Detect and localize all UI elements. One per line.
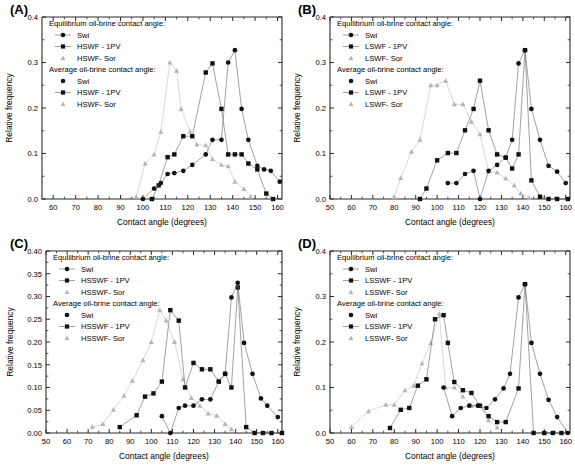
y-tick-label: 0.25	[27, 315, 42, 324]
x-tick-label: 100	[431, 437, 444, 446]
y-axis-title: Relative frequency	[292, 307, 302, 377]
legend-entry-label: Swi	[365, 31, 378, 40]
x-tick-label: 120	[474, 203, 487, 212]
legend: Equilibrium oil-brine contact angle:SwiH…	[53, 253, 169, 343]
x-tick-label: 100	[431, 203, 444, 212]
x-tick-label: 90	[126, 437, 134, 446]
legend-heading: Equilibrium oil-brine contact angle:	[53, 253, 169, 262]
x-tick-label: 160	[559, 203, 572, 212]
y-tick-label: 0.3	[315, 58, 326, 67]
x-tick-label: 60	[49, 203, 57, 212]
chart-svg: 50607080901001101201301401501600.00.10.2…	[288, 0, 575, 234]
y-tick-label: 0.2	[27, 104, 38, 113]
x-tick-label: 90	[116, 203, 124, 212]
y-tick-label: 0.4	[27, 13, 38, 22]
legend-entry-label: Swi	[77, 77, 90, 86]
legend: Equilibrium oil-brine contact angle:SwiL…	[337, 19, 453, 109]
x-tick-label: 60	[63, 437, 71, 446]
series-hswf-sor	[134, 60, 253, 199]
x-tick-label: 150	[538, 203, 551, 212]
y-tick-label: 0.4	[315, 13, 326, 22]
x-axis-title: Contact angle (degrees)	[405, 451, 495, 461]
y-tick-label: 0.3	[315, 292, 326, 301]
legend-entry-label: LSWF - 1PV	[365, 88, 408, 97]
x-tick-label: 140	[517, 437, 530, 446]
y-axis-title: Relative frequency	[4, 73, 14, 143]
x-tick-label: 70	[84, 437, 92, 446]
x-tick-label: 90	[411, 203, 419, 212]
legend-entry-label: HSSWF - 1PV	[81, 322, 130, 331]
plot-area-d: 50607080901001101201301401501600.00.10.2…	[288, 234, 575, 468]
y-tick-label: 0.3	[27, 58, 38, 67]
chart-panel-c: (C) 50607080901001101201301401501600.000…	[0, 234, 287, 468]
y-tick-label: 0.15	[27, 361, 42, 370]
y-tick-label: 0.05	[27, 406, 42, 415]
x-tick-label: 150	[538, 437, 551, 446]
legend-entry-label: LSWF- Sor	[365, 100, 403, 109]
legend-entry-label: LSSWF - 1PV	[365, 322, 413, 331]
x-tick-label: 70	[369, 437, 377, 446]
x-tick-label: 150	[250, 437, 263, 446]
y-tick-label: 0.1	[27, 149, 38, 158]
legend-heading: Equilibrium oil-brine contact angle:	[337, 19, 453, 28]
x-tick-label: 130	[208, 437, 221, 446]
x-tick-label: 120	[474, 437, 487, 446]
x-tick-label: 160	[559, 437, 572, 446]
legend-entry-label: HSWF- Sor	[77, 100, 116, 109]
legend-entry-label: LSSWF- Sor	[365, 334, 408, 343]
legend-entry-label: HSSWF - 1PV	[81, 276, 130, 285]
x-axis-title: Contact angle (degrees)	[119, 451, 209, 461]
series-swi	[441, 282, 570, 435]
legend-heading: Average oil-brine contact angle:	[337, 65, 444, 74]
legend-entry-label: HSSWF- Sor	[81, 334, 125, 343]
legend-entry-label: Swi	[77, 31, 90, 40]
x-tick-label: 70	[369, 203, 377, 212]
x-tick-label: 110	[159, 203, 171, 212]
y-tick-label: 0.0	[315, 195, 326, 204]
x-tick-label: 130	[204, 203, 217, 212]
y-tick-label: 0.2	[315, 338, 326, 347]
legend-heading: Average oil-brine contact angle:	[49, 65, 156, 74]
legend-entry-label: HSWF- Sor	[77, 54, 116, 63]
series-hswf-1pv	[150, 61, 276, 201]
legend-heading: Equilibrium oil-brine contact angle:	[49, 19, 165, 28]
plot-area-b: 50607080901001101201301401501600.00.10.2…	[288, 0, 575, 234]
x-tick-label: 160	[271, 437, 284, 446]
legend-entry-label: HSWF - 1PV	[77, 42, 121, 51]
chart-svg: 50607080901001101201301401501600.000.050…	[0, 234, 287, 468]
legend-entry-label: Swi	[365, 311, 378, 320]
legend: Equilibrium oil-brine contact angle:SwiL…	[337, 253, 453, 343]
x-tick-label: 80	[390, 203, 398, 212]
x-tick-label: 130	[495, 437, 508, 446]
legend-entry-label: LSSWF - 1PV	[365, 276, 413, 285]
legend-heading: Average oil-brine contact angle:	[337, 299, 444, 308]
x-tick-label: 120	[187, 437, 200, 446]
x-tick-label: 160	[271, 203, 284, 212]
x-axis-title: Contact angle (degrees)	[117, 217, 207, 227]
y-tick-label: 0.30	[27, 292, 42, 301]
x-tick-label: 60	[347, 203, 355, 212]
plot-area-c: 50607080901001101201301401501600.000.050…	[0, 234, 287, 468]
x-tick-label: 140	[226, 203, 239, 212]
y-tick-label: 0.20	[27, 338, 42, 347]
x-tick-label: 110	[166, 437, 178, 446]
x-tick-label: 110	[453, 203, 465, 212]
multi-panel-figure: (A) 607080901001101201301401501600.00.10…	[0, 0, 575, 469]
y-axis-title: Relative frequency	[5, 307, 15, 377]
legend-entry-label: LSSWF- Sor	[365, 288, 408, 297]
legend-entry-label: Swi	[81, 311, 94, 320]
y-tick-label: 0.4	[315, 247, 326, 256]
x-tick-label: 100	[137, 203, 150, 212]
legend-heading: Equilibrium oil-brine contact angle:	[337, 253, 453, 262]
legend-entry-label: HSSWF- Sor	[81, 288, 125, 297]
chart-panel-a: (A) 607080901001101201301401501600.00.10…	[0, 0, 287, 234]
y-tick-label: 0.40	[27, 247, 42, 256]
legend: Equilibrium oil-brine contact angle:SwiH…	[49, 19, 165, 109]
x-tick-label: 50	[326, 203, 334, 212]
x-tick-label: 90	[411, 437, 419, 446]
legend-heading: Average oil-brine contact angle:	[53, 299, 160, 308]
x-tick-label: 80	[105, 437, 113, 446]
x-tick-label: 100	[145, 437, 158, 446]
y-tick-label: 0.35	[27, 270, 42, 279]
y-tick-label: 0.0	[315, 429, 326, 438]
